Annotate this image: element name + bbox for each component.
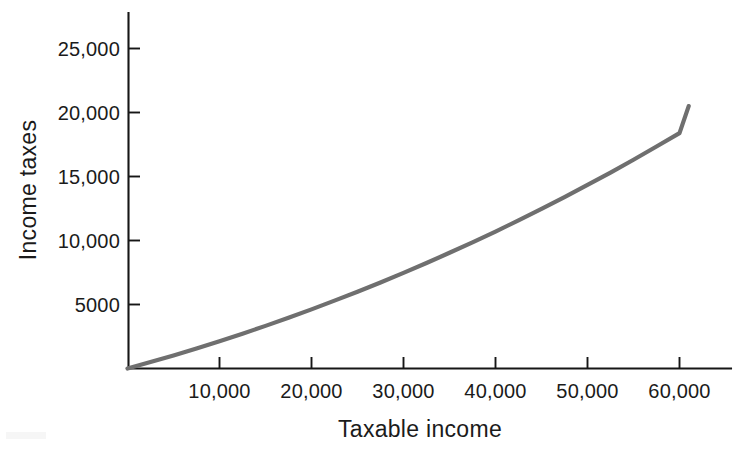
- scan-artifact: [6, 432, 46, 439]
- y-axis-ticks: [129, 49, 140, 305]
- y-axis-title: Income taxes: [15, 120, 41, 260]
- x-tick-label-30000: 30,000: [372, 380, 434, 402]
- x-tick-label-50000: 50,000: [556, 380, 618, 402]
- chart-plot-area: 25,000 20,000 15,000 10,000 5000 10,000 …: [0, 0, 742, 449]
- x-axis-tick-labels: 10,000 20,000 30,000 40,000 50,000 60,00…: [188, 380, 710, 402]
- y-tick-label-10000: 10,000: [58, 230, 120, 252]
- y-tick-label-20000: 20,000: [58, 102, 120, 124]
- x-axis-ticks: [220, 357, 680, 368]
- x-tick-label-60000: 60,000: [648, 380, 710, 402]
- x-tick-label-40000: 40,000: [464, 380, 526, 402]
- y-tick-label-25000: 25,000: [58, 38, 120, 60]
- chart-figure: 25,000 20,000 15,000 10,000 5000 10,000 …: [0, 0, 742, 449]
- x-tick-label-20000: 20,000: [280, 380, 342, 402]
- y-tick-label-5000: 5000: [75, 294, 120, 316]
- x-tick-label-10000: 10,000: [188, 380, 250, 402]
- income-tax-curve: [128, 106, 689, 368]
- y-axis-tick-labels: 25,000 20,000 15,000 10,000 5000: [58, 38, 120, 316]
- x-axis-title: Taxable income: [338, 416, 502, 442]
- y-tick-label-15000: 15,000: [58, 166, 120, 188]
